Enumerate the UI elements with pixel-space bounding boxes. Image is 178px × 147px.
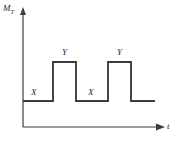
level-label-x-first: X [31,88,37,97]
arrow-up-icon [20,7,26,15]
figure-container: MT t X Y X Y [0,0,178,147]
y-axis-label-subscript: T [11,8,15,15]
x-axis-label: t [167,122,170,131]
y-axis-label-main: M [3,3,11,13]
arrow-right-icon [156,124,165,131]
y-axis-label: MT [3,4,14,15]
level-label-y-first: Y [62,48,67,57]
level-label-y-second: Y [117,48,122,57]
waveform-plot [0,0,178,147]
level-label-x-second: X [88,88,94,97]
